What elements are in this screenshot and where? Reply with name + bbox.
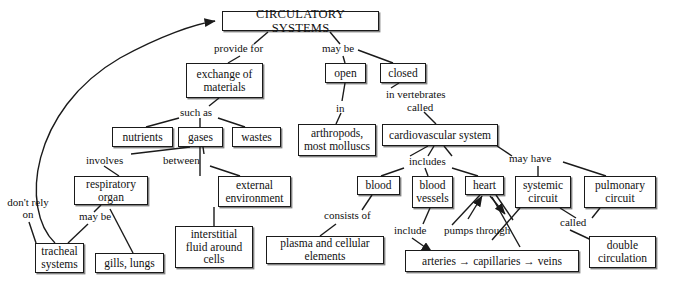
node-closed[interactable]: closed: [380, 63, 426, 83]
node-gills-lungs[interactable]: gills, lungs: [95, 253, 164, 273]
edge-label-may-be-respiratory: may be: [79, 210, 111, 222]
edge-label-in: in: [336, 102, 345, 114]
node-double-circulation[interactable]: double circulation: [589, 236, 656, 268]
node-cardiovascular-system[interactable]: cardiovascular system: [382, 124, 498, 146]
edge-label-may-be: may be: [322, 42, 354, 54]
edge-label-consists-of: consists of: [324, 209, 371, 221]
edge-label-involves: involves: [86, 154, 123, 166]
node-arteries-capillaries-veins[interactable]: arteries → capillaries → veins: [405, 250, 579, 272]
node-tracheal-systems[interactable]: tracheal systems: [35, 243, 84, 273]
node-pulmonary-circuit[interactable]: pulmonary circuit: [584, 176, 656, 208]
node-external-environment[interactable]: external environment: [218, 176, 291, 207]
edge-label-provide-for: provide for: [214, 42, 263, 54]
concept-map: CIRCULATORY SYSTEMS exchange of material…: [0, 0, 687, 288]
node-nutrients[interactable]: nutrients: [112, 127, 173, 147]
edge-label-dont-rely-on: don't rely on: [4, 196, 52, 220]
edge-label-include: include: [394, 224, 426, 236]
node-wastes[interactable]: wastes: [232, 127, 281, 147]
node-respiratory-organ[interactable]: respiratory organ: [74, 176, 148, 205]
node-systemic-circuit[interactable]: systemic circuit: [515, 176, 571, 208]
edge-label-may-have: may have: [509, 152, 551, 164]
node-blood[interactable]: blood: [357, 176, 400, 195]
node-circulatory-systems[interactable]: CIRCULATORY SYSTEMS: [222, 11, 379, 31]
edge-label-between: between: [163, 154, 200, 166]
edge-label-includes: includes: [409, 155, 446, 167]
edge-label-such-as: such as: [180, 106, 212, 118]
node-plasma-and-cellular-elements[interactable]: plasma and cellular elements: [266, 236, 384, 264]
node-open[interactable]: open: [325, 63, 366, 83]
node-blood-vessels[interactable]: blood vessels: [412, 176, 453, 208]
node-arthropods-most-molluscs[interactable]: arthropods, most molluscs: [298, 124, 376, 156]
edge-label-in-vertebrates: in vertebrates: [386, 88, 446, 100]
edge-label-called-vertebrates: called: [407, 101, 433, 113]
node-exchange-of-materials[interactable]: exchange of materials: [186, 63, 263, 98]
node-gases[interactable]: gases: [178, 127, 223, 147]
node-heart[interactable]: heart: [465, 176, 504, 195]
edge-label-pumps-through: pumps through: [444, 224, 510, 236]
node-interstitial-fluid-around-cells[interactable]: interstitial fluid around cells: [175, 226, 253, 268]
edge-label-called-double: called: [560, 216, 586, 228]
